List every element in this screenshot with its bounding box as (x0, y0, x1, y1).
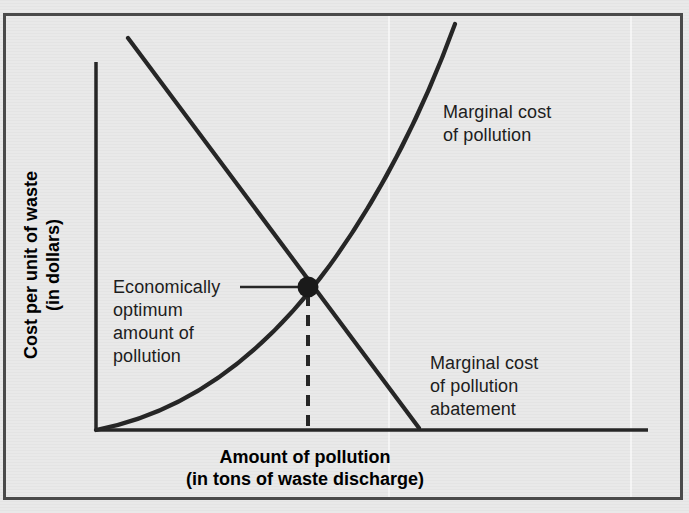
x-axis-title: Amount of pollution(in tons of waste dis… (95, 446, 515, 490)
annotation-mca-line2: of pollution (430, 376, 518, 396)
x-axis-title-line2: (in tons of waste discharge) (186, 469, 424, 489)
x-axis-title-line1: Amount of pollution (220, 447, 391, 467)
annotation-optimum-line4: pollution (113, 346, 181, 366)
figure-page: Cost per unit of waste(in dollars) Amoun… (0, 0, 689, 513)
chart-canvas (0, 0, 689, 513)
curve-marginal-cost-of-abatement (128, 38, 419, 428)
annotation-optimum: Economicallyoptimumamount ofpollution (113, 276, 220, 368)
annotation-optimum-line3: amount of (113, 323, 194, 343)
annotation-mcp-line1: Marginal cost (443, 102, 551, 122)
optimum-point-marker (298, 277, 319, 298)
annotation-mcp-line2: of pollution (443, 125, 531, 145)
y-axis-title-line2: (in dollars) (43, 219, 63, 311)
annotation-mca-line3: abatement (430, 399, 516, 419)
curve-marginal-cost-of-pollution (96, 24, 455, 430)
annotation-marginal-cost-of-abatement: Marginal costof pollutionabatement (430, 352, 538, 421)
annotation-mca-line1: Marginal cost (430, 353, 538, 373)
y-axis-title-line1: Cost per unit of waste (21, 171, 41, 359)
annotation-optimum-line2: optimum (113, 300, 183, 320)
annotation-marginal-cost-of-pollution: Marginal costof pollution (443, 101, 551, 147)
y-axis-title: Cost per unit of waste(in dollars) (20, 145, 64, 385)
annotation-optimum-line1: Economically (113, 277, 220, 297)
